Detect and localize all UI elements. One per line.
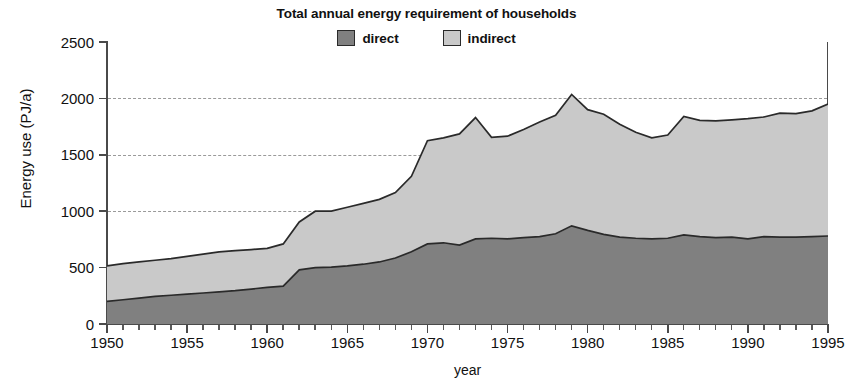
- x-axis-tick-minor: [523, 325, 524, 330]
- x-axis-tick-minor: [795, 325, 796, 330]
- x-axis-tick-minor: [331, 325, 332, 330]
- x-axis-tick-minor: [363, 325, 364, 330]
- y-axis-tick-label: 2000: [32, 91, 94, 106]
- x-axis-tick-minor: [154, 325, 155, 330]
- x-axis-tick-minor: [395, 325, 396, 330]
- x-axis-tick-minor: [459, 325, 460, 330]
- x-axis-title: year: [107, 362, 828, 378]
- x-axis-tick-minor: [619, 325, 620, 330]
- x-axis-tick-major: [667, 325, 669, 333]
- x-axis-tick-label: 1960: [237, 335, 297, 350]
- x-axis-tick-minor: [731, 325, 732, 330]
- x-axis-tick-minor: [282, 325, 283, 330]
- x-axis-tick-label: 1950: [77, 335, 137, 350]
- x-axis-tick-minor: [234, 325, 235, 330]
- chart-figure: Total annual energy requirement of house…: [0, 0, 853, 382]
- x-axis-tick-major: [106, 325, 108, 333]
- x-axis-tick-minor: [683, 325, 684, 330]
- x-axis-tick-major: [587, 325, 589, 333]
- x-axis-tick-major: [266, 325, 268, 333]
- x-axis-tick-minor: [250, 325, 251, 330]
- x-axis-tick-minor: [763, 325, 764, 330]
- x-axis-tick-minor: [170, 325, 171, 330]
- x-axis-tick-minor: [699, 325, 700, 330]
- y-axis-tick-label: 500: [32, 260, 94, 275]
- x-axis-tick-label: 1975: [478, 335, 538, 350]
- x-axis-tick-major: [507, 325, 509, 333]
- y-axis-tick-label: 0: [32, 317, 94, 332]
- x-axis-tick-minor: [555, 325, 556, 330]
- y-axis-tick-label: 1500: [32, 147, 94, 162]
- x-axis-tick-minor: [491, 325, 492, 330]
- plot-area: [107, 42, 828, 324]
- x-axis-tick-label: 1995: [798, 335, 853, 350]
- x-axis-tick-minor: [571, 325, 572, 330]
- x-axis-tick-minor: [475, 325, 476, 330]
- x-axis-tick-minor: [651, 325, 652, 330]
- y-axis-title: Energy use (PJ/a): [17, 19, 34, 279]
- x-axis-tick-minor: [603, 325, 604, 330]
- x-axis-tick-major: [827, 325, 829, 333]
- x-axis-tick-label: 1990: [718, 335, 778, 350]
- x-axis-tick-minor: [202, 325, 203, 330]
- x-axis-tick-minor: [298, 325, 299, 330]
- x-axis-tick-minor: [811, 325, 812, 330]
- x-axis-tick-minor: [314, 325, 315, 330]
- x-axis-tick-minor: [779, 325, 780, 330]
- x-axis-tick-label: 1970: [397, 335, 457, 350]
- x-axis-tick-minor: [379, 325, 380, 330]
- y-axis-tick-label: 1000: [32, 204, 94, 219]
- x-axis-tick-major: [427, 325, 429, 333]
- stacked-area-plot: [107, 42, 828, 324]
- x-axis-tick-major: [186, 325, 188, 333]
- x-axis-tick-minor: [715, 325, 716, 330]
- x-axis-tick-major: [347, 325, 349, 333]
- y-axis-tick-label: 2500: [32, 35, 94, 50]
- x-axis-tick-minor: [138, 325, 139, 330]
- x-axis-tick-minor: [539, 325, 540, 330]
- x-axis-tick-label: 1965: [317, 335, 377, 350]
- x-axis-tick-major: [747, 325, 749, 333]
- page-title: Total annual energy requirement of house…: [0, 6, 853, 21]
- x-axis-tick-minor: [411, 325, 412, 330]
- x-axis-tick-minor: [122, 325, 123, 330]
- x-axis-tick-minor: [635, 325, 636, 330]
- x-axis-tick-minor: [443, 325, 444, 330]
- x-axis-tick-label: 1955: [157, 335, 217, 350]
- x-axis-tick-label: 1985: [638, 335, 698, 350]
- x-axis-tick-label: 1980: [558, 335, 618, 350]
- x-axis-tick-minor: [218, 325, 219, 330]
